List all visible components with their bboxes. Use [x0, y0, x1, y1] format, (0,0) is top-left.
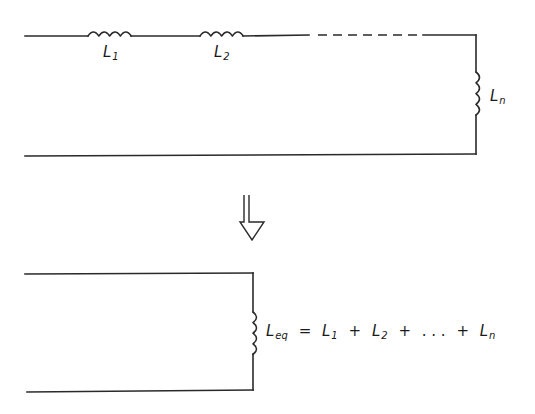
wire-bottom-bottom [27, 390, 253, 392]
label-l1-symbol: L [103, 43, 111, 61]
label-l2: L2 [214, 45, 230, 62]
wire-after-l2 [243, 35, 309, 36]
label-l1: L1 [103, 45, 119, 62]
equivalent-inductance-equation: Leq = L1 + L2 + . . . + Ln [266, 324, 495, 341]
inductor-leq-icon [253, 312, 257, 354]
label-l2-symbol: L [214, 43, 222, 61]
down-arrow-icon [240, 195, 264, 240]
top-circuit [25, 32, 480, 156]
circuit-diagram [0, 0, 535, 414]
eq-lhs-symbol: L [266, 322, 274, 340]
label-ln-symbol: L [490, 87, 498, 105]
eq-term-2-symbol: L [372, 322, 380, 340]
wire-bottom-top [25, 273, 253, 274]
eq-lhs-subscript: eq [275, 330, 288, 341]
inductor-ln-icon [476, 72, 480, 115]
eq-term-1-subscript: 1 [331, 330, 337, 341]
label-ln-subscript: n [499, 95, 505, 106]
label-ln: Ln [490, 89, 506, 106]
bottom-circuit [25, 273, 257, 392]
eq-equals: = [299, 322, 312, 340]
inductor-l2-icon [200, 32, 243, 36]
eq-term-1-symbol: L [322, 322, 330, 340]
eq-plus-2: + [398, 322, 411, 340]
eq-term-2-subscript: 2 [381, 330, 387, 341]
label-l2-subscript: 2 [223, 51, 229, 62]
label-l1-subscript: 1 [112, 51, 118, 62]
eq-term-n-subscript: n [489, 330, 495, 341]
eq-term-n-symbol: L [480, 322, 488, 340]
wire-bottom [25, 154, 476, 156]
eq-plus-1: + [349, 322, 362, 340]
inductor-l1-icon [88, 32, 131, 36]
eq-plus-3: + [456, 322, 469, 340]
eq-ellipsis: . . . [422, 322, 446, 340]
